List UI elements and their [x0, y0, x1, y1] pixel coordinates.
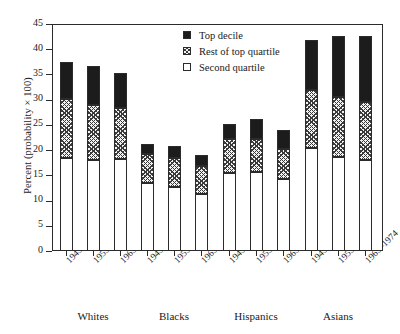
- bar-segment-rest-of-top-quartile: [332, 97, 345, 158]
- bar-segment-second-quartile: [60, 158, 73, 251]
- bar-asians-1965–1974: [359, 36, 372, 251]
- legend-item-second-quartile: Second quartile: [183, 59, 280, 75]
- bar-asians-1955–1964: [332, 36, 345, 251]
- bar-segment-top-decile: [277, 130, 290, 148]
- bar-blacks-1965–1974: [195, 155, 208, 251]
- bar-segment-top-decile: [332, 36, 345, 97]
- bar-segment-second-quartile: [277, 179, 290, 251]
- bar-hispanics-1945–1954: [223, 124, 236, 251]
- x-axis-group-label-blacks: Blacks: [129, 310, 219, 322]
- legend-item-top-decile: Top decile: [183, 27, 280, 43]
- bar-segment-second-quartile: [168, 187, 181, 251]
- bar-segment-top-decile: [195, 155, 208, 166]
- y-axis-tick-label: 25: [33, 117, 43, 128]
- bar-segment-top-decile: [141, 144, 154, 155]
- bar-segment-rest-of-top-quartile: [87, 105, 100, 160]
- bar-segment-rest-of-top-quartile: [277, 149, 290, 179]
- y-axis-tick-label: 5: [38, 218, 43, 229]
- bar-segment-rest-of-top-quartile: [141, 154, 154, 183]
- chart-legend: Top decile Rest of top quartile Second q…: [183, 27, 280, 75]
- bar-hispanics-1965–1974: [277, 130, 290, 251]
- bar-segment-second-quartile: [250, 172, 263, 251]
- bar-asians-1945–1954: [305, 40, 318, 251]
- bar-blacks-1945–1954: [141, 144, 154, 251]
- bar-segment-rest-of-top-quartile: [305, 90, 318, 149]
- bar-blacks-1955–1964: [168, 146, 181, 251]
- bar-segment-top-decile: [223, 124, 236, 139]
- bar-segment-rest-of-top-quartile: [223, 139, 236, 173]
- legend-label-rest-of-top-quartile: Rest of top quartile: [199, 46, 280, 57]
- bar-segment-second-quartile: [114, 159, 127, 251]
- bar-segment-second-quartile: [195, 194, 208, 251]
- y-axis-tick-label: 0: [38, 244, 43, 255]
- legend-swatch-second-quartile-icon: [183, 63, 191, 71]
- bar-segment-top-decile: [168, 146, 181, 158]
- bar-whites-1955–1964: [87, 66, 100, 251]
- legend-label-second-quartile: Second quartile: [199, 62, 265, 73]
- y-axis-tick-mark: [46, 251, 52, 252]
- bar-segment-second-quartile: [332, 157, 345, 251]
- bar-segment-rest-of-top-quartile: [195, 166, 208, 194]
- bar-segment-top-decile: [305, 40, 318, 89]
- bar-segment-top-decile: [87, 66, 100, 105]
- bar-segment-top-decile: [60, 62, 73, 99]
- legend-item-rest-of-top-quartile: Rest of top quartile: [183, 43, 280, 59]
- y-axis-title: Percent (probability × 100): [22, 26, 33, 246]
- y-axis-tick-label: 30: [33, 92, 43, 103]
- bar-segment-top-decile: [359, 36, 372, 102]
- bar-segment-second-quartile: [87, 160, 100, 251]
- bar-hispanics-1955–1964: [250, 119, 263, 251]
- legend-swatch-top-decile-icon: [183, 31, 191, 39]
- bar-segment-rest-of-top-quartile: [60, 99, 73, 158]
- y-axis-tick-label: 35: [33, 67, 43, 78]
- x-axis-group-label-whites: Whites: [48, 310, 138, 322]
- y-axis-tick-label: 15: [33, 168, 43, 179]
- x-axis-group-label-asians: Asians: [293, 310, 383, 322]
- bar-segment-rest-of-top-quartile: [114, 108, 127, 159]
- bar-segment-top-decile: [114, 73, 127, 108]
- bar-segment-rest-of-top-quartile: [359, 102, 372, 160]
- legend-swatch-rest-of-top-quartile-icon: [183, 47, 191, 55]
- bar-segment-second-quartile: [223, 173, 236, 251]
- y-axis-tick-label: 45: [33, 17, 43, 28]
- bar-segment-top-decile: [250, 119, 263, 139]
- bar-segment-rest-of-top-quartile: [168, 158, 181, 187]
- y-axis-tick-label: 40: [33, 42, 43, 53]
- bar-whites-1945–1954: [60, 62, 73, 251]
- legend-label-top-decile: Top decile: [199, 30, 243, 41]
- y-axis-tick-label: 10: [33, 193, 43, 204]
- bar-segment-rest-of-top-quartile: [250, 139, 263, 173]
- bar-whites-1965–1974: [114, 73, 127, 251]
- bar-segment-second-quartile: [359, 160, 372, 251]
- bar-segment-second-quartile: [305, 148, 318, 251]
- bar-segment-second-quartile: [141, 183, 154, 251]
- y-axis-tick-label: 20: [33, 143, 43, 154]
- x-axis-group-label-hispanics: Hispanics: [211, 310, 301, 322]
